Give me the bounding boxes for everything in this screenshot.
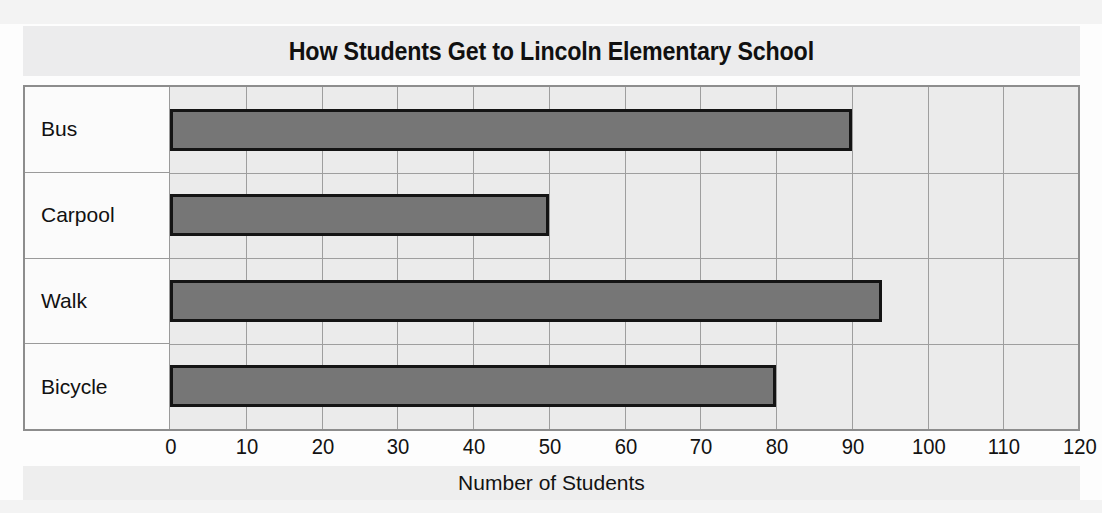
bar-carpool[interactable] [170,194,549,236]
paper-tint-bottom [0,500,1102,513]
bar-bus[interactable] [170,109,852,151]
x-tick-label: 30 [387,434,410,460]
x-tick-label: 120 [1063,434,1097,460]
x-tick-label: 100 [912,434,946,460]
x-tick-label: 10 [235,434,258,460]
category-cell-bicycle: Bicycle [25,344,169,429]
bar-chart: Bus Carpool Walk Bicycle [23,85,1080,431]
bar-row [170,87,1078,173]
category-label: Bicycle [41,375,108,399]
page-title: How Students Get to Lincoln Elementary S… [289,37,814,66]
bar-walk[interactable] [170,280,882,322]
x-axis-title-band: Number of Students [23,466,1080,500]
paper-tint-top [0,0,1102,24]
x-tick-label: 60 [614,434,637,460]
category-label: Bus [41,117,77,141]
category-cell-bus: Bus [25,87,169,173]
category-axis-column: Bus Carpool Walk Bicycle [25,87,170,429]
x-tick-label: 40 [463,434,486,460]
x-tick-label: 20 [311,434,334,460]
bar-bicycle[interactable] [170,365,776,407]
x-tick-label: 110 [988,434,1020,460]
category-cell-carpool: Carpool [25,173,169,259]
category-label: Carpool [41,203,115,227]
x-tick-label: 50 [538,434,561,460]
bar-row [170,258,1078,344]
scanned-page: How Students Get to Lincoln Elementary S… [0,0,1102,513]
category-label: Walk [41,289,87,313]
category-cell-walk: Walk [25,259,169,345]
x-tick-label: 90 [841,434,864,460]
x-axis-tick-labels: 0102030405060708090100110120 [23,434,1080,464]
x-tick-label: 70 [690,434,713,460]
x-tick-label: 0 [165,434,176,460]
bar-row [170,173,1078,259]
bar-row [170,344,1078,430]
x-tick-label: 80 [766,434,789,460]
chart-title-band: How Students Get to Lincoln Elementary S… [23,26,1080,76]
x-axis-title: Number of Students [458,471,645,495]
plot-area [170,87,1078,429]
